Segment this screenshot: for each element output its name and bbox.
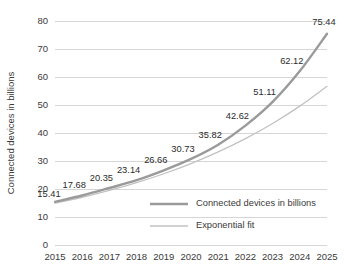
legend-label: Connected devices in billions [196, 198, 316, 208]
data-point-label: 15.41 [37, 189, 60, 199]
y-axis-title: Connected devices in billions [5, 71, 16, 194]
data-point-label: 26.66 [144, 155, 167, 165]
x-tick-label: 2019 [153, 251, 174, 262]
x-tick-label: 2025 [316, 251, 337, 262]
x-tick-label: 2016 [72, 251, 93, 262]
line-chart: 01020304050607080 2015201620172018201920… [0, 0, 344, 280]
y-tick-label: 40 [37, 127, 48, 138]
legend-label: Exponential fit [196, 220, 255, 230]
y-tick-label: 70 [37, 43, 48, 54]
y-tick-label: 60 [37, 71, 48, 82]
y-tick-label: 30 [37, 155, 48, 166]
y-tick-label: 80 [37, 15, 48, 26]
data-point-label: 30.73 [171, 144, 194, 154]
y-tick-label: 50 [37, 99, 48, 110]
data-point-label: 17.68 [63, 180, 86, 190]
y-axis-tick-labels: 01020304050607080 [37, 15, 48, 250]
data-point-label: 35.82 [199, 130, 222, 140]
x-tick-label: 2018 [126, 251, 147, 262]
x-tick-label: 2020 [180, 251, 201, 262]
data-point-label: 23.14 [117, 165, 140, 175]
data-point-label: 42.62 [226, 111, 249, 121]
x-tick-label: 2024 [289, 251, 310, 262]
x-tick-label: 2022 [235, 251, 256, 262]
y-tick-label: 0 [43, 239, 48, 250]
data-point-label: 75.44 [312, 17, 335, 27]
x-tick-label: 2023 [262, 251, 283, 262]
x-tick-label: 2015 [44, 251, 65, 262]
x-axis-tick-labels: 2015201620172018201920202021202220232024… [44, 251, 337, 262]
x-tick-label: 2021 [208, 251, 229, 262]
data-point-label: 62.12 [280, 56, 303, 66]
y-tick-label: 10 [37, 211, 48, 222]
data-point-label: 20.35 [90, 173, 113, 183]
data-point-label: 51.11 [253, 87, 276, 97]
chart-background [0, 0, 344, 280]
x-tick-label: 2017 [99, 251, 120, 262]
chart-container: 01020304050607080 2015201620172018201920… [0, 0, 344, 280]
